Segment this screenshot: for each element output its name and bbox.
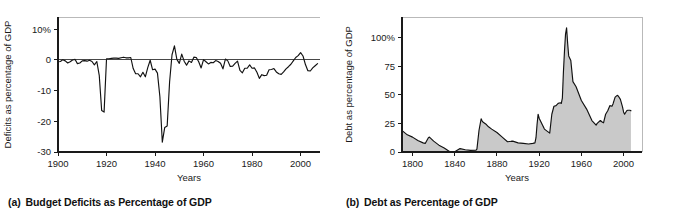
budget-deficits-chart: 10%0-10-20-30190019201940196019802000Yea… — [0, 0, 338, 212]
y-tick-label: 75 — [384, 61, 395, 72]
x-tick-label: 1800 — [402, 158, 423, 169]
x-tick-label: 1960 — [193, 158, 214, 169]
debt-percentage-chart: 100%7550250180018401880192019602000Years… — [338, 0, 676, 212]
y-tick-label: 25 — [384, 118, 395, 129]
panel-a-caption: (a)Budget Deficits as Percentage of GDP — [8, 196, 212, 208]
y-tick-label: 0 — [390, 146, 395, 157]
y-tick-label: -30 — [37, 146, 51, 157]
x-tick-label: 1920 — [96, 158, 117, 169]
x-tick-label: 2000 — [613, 158, 634, 169]
x-tick-label: 1880 — [486, 158, 507, 169]
debt-area-fill — [403, 28, 631, 152]
y-tick-label: 50 — [384, 89, 395, 100]
x-tick-label: 1840 — [444, 158, 465, 169]
y-tick-label: -10 — [37, 85, 51, 96]
y-tick-label: 10% — [32, 24, 52, 35]
y-axis-title: Deficits as percentage of GDP — [2, 21, 13, 149]
y-axis-title: Debt as percentage of GDP — [343, 26, 354, 143]
x-axis-title: Years — [505, 172, 529, 183]
x-tick-label: 1960 — [571, 158, 592, 169]
panel-b-caption-tag: (b) — [346, 196, 359, 208]
panel-a-caption-text: Budget Deficits as Percentage of GDP — [26, 196, 212, 208]
x-axis-title: Years — [177, 172, 201, 183]
panel-a-caption-tag: (a) — [8, 196, 21, 208]
panel-b-caption: (b)Debt as Percentage of GDP — [346, 196, 498, 208]
panel-b-caption-text: Debt as Percentage of GDP — [364, 196, 497, 208]
chart-panel-debt: 100%7550250180018401880192019602000Years… — [338, 0, 676, 212]
x-tick-label: 1980 — [242, 158, 263, 169]
x-tick-label: 1920 — [529, 158, 550, 169]
y-tick-label: 0 — [46, 54, 51, 65]
x-tick-label: 1940 — [144, 158, 165, 169]
figure-root: 10%0-10-20-30190019201940196019802000Yea… — [0, 0, 676, 212]
y-tick-label: 100% — [371, 32, 396, 43]
x-tick-label: 2000 — [290, 158, 311, 169]
y-tick-label: -20 — [37, 116, 51, 127]
chart-panel-budget-deficits: 10%0-10-20-30190019201940196019802000Yea… — [0, 0, 338, 212]
x-tick-label: 1900 — [47, 158, 68, 169]
